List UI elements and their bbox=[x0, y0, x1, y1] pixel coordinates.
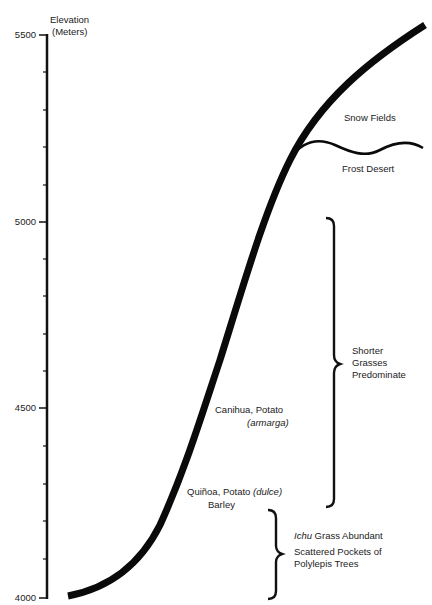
axis-title-line2: (Meters) bbox=[52, 26, 87, 38]
brace-shorter-grasses bbox=[326, 218, 340, 507]
label-grass-abundant: Grass Abundant bbox=[312, 530, 383, 541]
label-armarga: (armarga) bbox=[247, 417, 289, 429]
label-scattered-2: Polylepis Trees bbox=[294, 558, 358, 570]
diagram-canvas bbox=[0, 0, 432, 605]
label-scattered-1: Scattered Pockets of bbox=[294, 546, 382, 558]
label-ichu: Ichu bbox=[294, 530, 312, 541]
label-ichu-grass: Ichu Grass Abundant bbox=[294, 530, 383, 542]
tick-label-4000: 4000 bbox=[2, 592, 36, 603]
label-frost-desert: Frost Desert bbox=[342, 163, 394, 175]
snow-line bbox=[290, 141, 423, 158]
axis-title-line1: Elevation bbox=[50, 14, 89, 26]
label-canihua: Canihua, Potato bbox=[215, 404, 283, 416]
label-quinoa-text: Quiñoa, Potato bbox=[187, 486, 253, 497]
label-shorter-grasses-1: Shorter bbox=[352, 345, 383, 357]
label-shorter-grasses-2: Grasses bbox=[352, 357, 387, 369]
label-barley: Barley bbox=[208, 499, 235, 511]
tick-label-5000: 5000 bbox=[2, 216, 36, 227]
label-snow-fields: Snow Fields bbox=[344, 112, 396, 124]
tick-label-4500: 4500 bbox=[2, 402, 36, 413]
label-quinoa: Quiñoa, Potato (dulce) bbox=[187, 486, 282, 498]
elevation-curve bbox=[68, 25, 425, 596]
brace-ichu-grass bbox=[268, 510, 282, 599]
label-dulce: (dulce) bbox=[253, 486, 282, 497]
tick-label-5500: 5500 bbox=[2, 29, 36, 40]
label-shorter-grasses-3: Predominate bbox=[352, 369, 406, 381]
